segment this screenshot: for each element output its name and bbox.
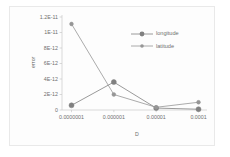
- x-axis-tick-label: 0.000001: [91, 114, 137, 120]
- data-point-longitude: [111, 80, 116, 85]
- x-axis-title: D: [135, 131, 139, 137]
- x-axis-tick-label: 0.00001: [133, 114, 179, 120]
- legend-swatch-longitude: [131, 30, 153, 38]
- legend-marker-icon: [140, 44, 144, 48]
- data-point-latitude: [154, 105, 158, 109]
- legend-label-longitude: longitude: [156, 30, 179, 36]
- y-axis-tick-label: 8E-12: [20, 45, 58, 51]
- y-axis-tick-label: 2E-12: [20, 91, 58, 97]
- y-axis-tick-label: 1E-11: [20, 29, 58, 35]
- y-axis-tick-label: 0: [20, 107, 58, 113]
- legend-label-latitude: latitude: [156, 43, 174, 49]
- legend-marker-icon: [140, 31, 145, 36]
- y-axis-tick-label: 4E-12: [20, 76, 58, 82]
- x-axis-tick-label: 0.0000001: [49, 114, 95, 120]
- data-point-latitude: [197, 100, 201, 104]
- data-point-latitude: [70, 22, 74, 26]
- y-axis-tick-label: 1.2E-11: [20, 14, 58, 20]
- legend-swatch-latitude: [131, 42, 153, 50]
- data-point-longitude: [69, 103, 74, 108]
- x-axis-tick-label: 0.0001: [176, 114, 222, 120]
- data-point-longitude: [196, 107, 201, 112]
- y-axis-tick-label: 6E-12: [20, 60, 58, 66]
- data-point-latitude: [112, 93, 116, 97]
- series-line-longitude: [72, 82, 199, 109]
